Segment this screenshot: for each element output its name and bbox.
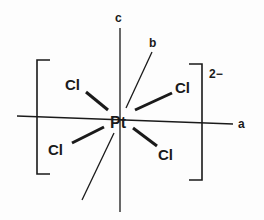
axis-a-label: a xyxy=(238,117,245,131)
ligand-label-top-left: Cl xyxy=(65,76,80,93)
diagram-canvas: Pt Cl Cl Cl Cl 2− c b a xyxy=(0,0,264,220)
ligand-label-bottom-left: Cl xyxy=(48,141,63,158)
axis-b-line-lower xyxy=(82,133,114,200)
axis-b-line-upper xyxy=(126,52,152,108)
ligand-label-bottom-right: Cl xyxy=(158,146,173,163)
ptcl4-diagram: Pt Cl Cl Cl Cl 2− c b a xyxy=(0,0,264,220)
central-atom-label: Pt xyxy=(110,114,127,131)
bond-bottom-right xyxy=(133,128,157,146)
axis-b-label: b xyxy=(149,36,156,50)
ligand-label-top-right: Cl xyxy=(175,79,190,96)
charge-label: 2− xyxy=(209,67,223,81)
axis-c-label: c xyxy=(115,11,122,25)
bond-bottom-left xyxy=(72,127,104,143)
bond-top-left xyxy=(86,92,108,110)
bond-top-right xyxy=(135,93,172,110)
